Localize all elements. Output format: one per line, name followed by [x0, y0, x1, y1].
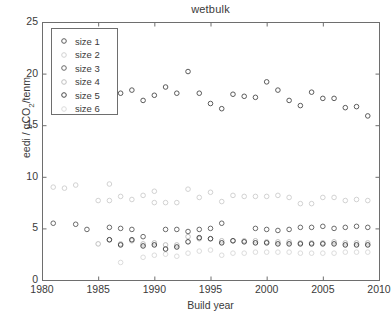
data-point [175, 254, 180, 259]
data-point [51, 185, 56, 190]
data-point [107, 198, 112, 203]
data-point [197, 195, 202, 200]
data-point [107, 237, 112, 242]
legend-marker-circle-icon [56, 90, 72, 100]
data-point [276, 228, 281, 233]
data-point [118, 260, 123, 265]
data-point [287, 250, 292, 255]
data-point [141, 255, 146, 260]
data-point [231, 238, 236, 243]
legend-label: size 1 [75, 36, 100, 47]
data-point [287, 98, 292, 103]
data-point [51, 221, 56, 226]
data-point [186, 234, 191, 239]
series-size-2 [51, 182, 370, 206]
data-point [253, 250, 258, 255]
data-point [107, 182, 112, 187]
data-point [343, 250, 348, 255]
legend[interactable]: size 1size 2size 3size 4size 5size 6 [51, 28, 118, 115]
data-point [219, 106, 224, 111]
data-point [321, 195, 326, 200]
legend-marker-circle-icon [56, 63, 72, 73]
data-point [365, 114, 370, 119]
data-point [298, 103, 303, 108]
data-point [163, 85, 168, 90]
legend-marker-circle-icon [56, 50, 72, 60]
data-point [197, 249, 202, 254]
data-point [365, 198, 370, 203]
legend-item-size-5[interactable]: size 5 [52, 88, 119, 102]
data-point [332, 251, 337, 256]
data-point [242, 94, 247, 99]
legend-label: size 5 [75, 90, 100, 101]
legend-marker-circle-icon [56, 77, 72, 87]
data-point [309, 251, 314, 256]
data-point [343, 105, 348, 110]
data-point [208, 226, 213, 231]
data-point [242, 194, 247, 199]
legend-item-size-1[interactable]: size 1 [52, 34, 119, 48]
data-point [354, 197, 359, 202]
data-point [186, 229, 191, 234]
data-point [354, 250, 359, 255]
data-point [332, 226, 337, 231]
data-point [118, 91, 123, 96]
data-point [163, 252, 168, 257]
legend-item-size-2[interactable]: size 2 [52, 48, 119, 62]
data-point [231, 193, 236, 198]
data-point [208, 236, 213, 241]
legend-label: size 4 [75, 76, 100, 87]
legend-item-size-3[interactable]: size 3 [52, 61, 119, 75]
data-point [163, 200, 168, 205]
data-point [152, 253, 157, 258]
data-point [186, 69, 191, 74]
data-point [130, 197, 135, 202]
series-size-4 [96, 234, 370, 247]
data-point [354, 224, 359, 229]
data-point [253, 95, 258, 100]
data-point [365, 225, 370, 230]
legend-marker-circle-icon [56, 36, 72, 46]
data-point [219, 199, 224, 204]
data-point [175, 91, 180, 96]
data-point [96, 242, 101, 247]
data-point [264, 250, 269, 255]
data-point [118, 194, 123, 199]
data-point [186, 187, 191, 192]
data-point [242, 251, 247, 256]
data-point [152, 93, 157, 98]
data-point [130, 227, 135, 232]
data-point [343, 225, 348, 230]
data-point [141, 234, 146, 239]
legend-item-size-4[interactable]: size 4 [52, 75, 119, 89]
series-size-1 [118, 69, 370, 118]
data-point [186, 251, 191, 256]
data-point [118, 226, 123, 231]
data-point [276, 193, 281, 198]
data-point [175, 227, 180, 232]
series-size-6 [118, 248, 370, 265]
data-point [73, 183, 78, 188]
legend-label: size 6 [75, 103, 100, 114]
series-size-5 [107, 235, 370, 251]
data-point [197, 91, 202, 96]
data-point [163, 227, 168, 232]
data-point [298, 251, 303, 256]
data-point [73, 222, 78, 227]
legend-item-size-6[interactable]: size 6 [52, 102, 119, 116]
data-point [264, 194, 269, 199]
legend-label: size 2 [75, 49, 100, 60]
data-point [354, 104, 359, 109]
data-point [298, 201, 303, 206]
data-point [287, 227, 292, 232]
data-point [309, 225, 314, 230]
data-point [365, 250, 370, 255]
data-point [208, 248, 213, 253]
data-point [332, 195, 337, 200]
data-point [219, 221, 224, 226]
data-point [276, 88, 281, 93]
data-point [309, 90, 314, 95]
data-point [253, 226, 258, 231]
data-point [264, 227, 269, 232]
legend-label: size 3 [75, 63, 100, 74]
